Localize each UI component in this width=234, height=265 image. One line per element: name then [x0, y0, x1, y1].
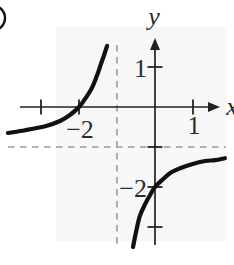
x-tick-label-1: 1 — [188, 111, 201, 140]
cropped-circle-fragment — [0, 6, 5, 31]
figure: −211−2 x y — [0, 0, 234, 265]
y-tick-label-1: 1 — [134, 54, 147, 83]
graph-canvas: −211−2 x y — [0, 0, 234, 265]
y-axis-label: y — [145, 2, 160, 31]
y-tick-label--2: −2 — [119, 174, 147, 203]
x-tick-label--2: −2 — [66, 115, 94, 144]
x-axis-label: x — [225, 92, 234, 121]
